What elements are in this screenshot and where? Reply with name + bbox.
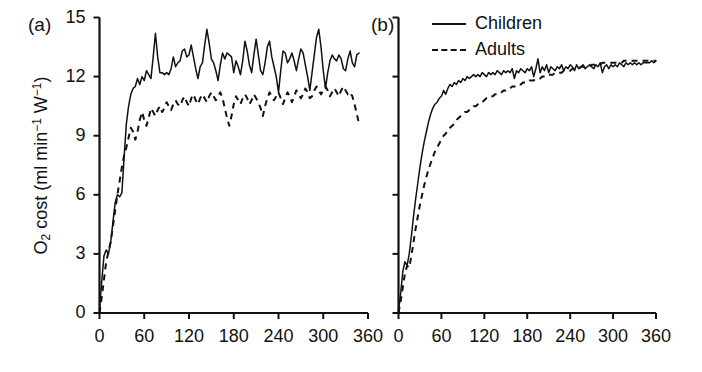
- panel-b-series-children: [399, 59, 657, 311]
- panel-a-y-tick-label: 3: [42, 243, 86, 264]
- panel-a-series-adults: [100, 86, 360, 313]
- panel-a-series-children: [100, 29, 360, 309]
- panel-b-series-adults: [399, 61, 657, 313]
- panel-a-y-tick-label: 9: [42, 125, 86, 146]
- panel-b-axis-spine: [399, 18, 657, 314]
- panel-b-x-tick-label: 360: [628, 326, 684, 347]
- panel-a-y-tick-label: 15: [42, 7, 86, 28]
- figure-root: O2 cost (ml min−1 W−1) (a) (b) Children …: [0, 0, 702, 372]
- panel-a-y-tick-label: 0: [42, 302, 86, 323]
- panel-b-axes: [393, 18, 657, 320]
- panel-a-axes: [94, 18, 369, 320]
- plot-canvas: [0, 0, 702, 372]
- panel-a-y-tick-label: 6: [42, 184, 86, 205]
- panel-a-y-tick-label: 12: [42, 66, 86, 87]
- panel-a-axis-spine: [100, 18, 369, 314]
